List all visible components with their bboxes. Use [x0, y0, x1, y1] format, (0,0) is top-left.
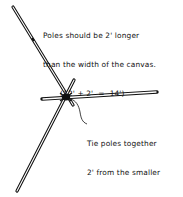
lashing-note: Tie poles together 2' from the smaller e…: [87, 120, 160, 197]
note-line: Poles should be 2' longer: [43, 31, 156, 41]
length-formula: (12' + 2' = 14'): [43, 89, 156, 99]
pole-length-note: Poles should be 2' longer than the width…: [43, 12, 156, 108]
note-line: than the width of the canvas.: [43, 60, 156, 70]
note-line: 2' from the smaller: [87, 168, 160, 178]
note-line: Tie poles together: [87, 139, 160, 149]
